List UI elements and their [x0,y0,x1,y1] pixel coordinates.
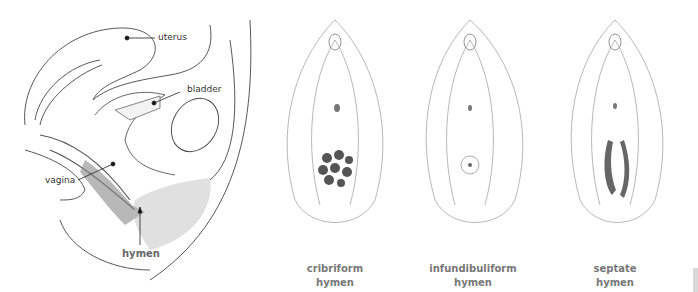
caption-cribriform: cribriform hymen [280,262,390,290]
label-uterus: uterus [158,32,187,42]
sagittal-cross-section: uterus bladder vagina hymen [0,0,260,292]
caption-septate: septate hymen [560,262,670,290]
infundibuliform-illustration [410,0,550,240]
caption-infundibuliform: infundibuliform hymen [418,262,528,290]
septate-illustration [550,0,690,240]
variant-cribriform: cribriform hymen [265,0,405,292]
label-vagina: vagina [45,175,75,185]
label-bladder: bladder [187,84,221,94]
scrollbar[interactable] [693,268,698,292]
variant-septate: septate hymen [550,0,690,292]
label-hymen: hymen [122,248,160,259]
variant-infundibuliform: infundibuliform hymen [410,0,550,292]
cribriform-illustration [265,0,405,240]
